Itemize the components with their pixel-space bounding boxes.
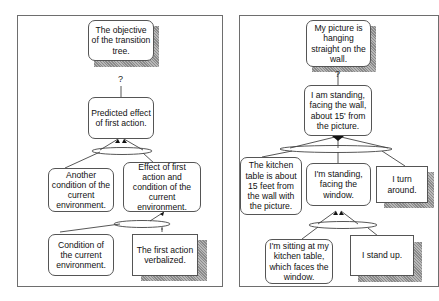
picture-objective-node[interactable]: My picture is hanging straight on the wa…	[306, 20, 371, 67]
predicted-effect-node[interactable]: Predicted effect of first action.	[88, 97, 154, 139]
turn-around-node[interactable]: I turn around.	[376, 166, 428, 203]
sitting-at-table-node[interactable]: I'm sitting at my kitchen table, which f…	[265, 239, 333, 284]
kitchen-table-distance-node[interactable]: The kitchen table is about 15 feet from …	[240, 157, 302, 215]
standing-facing-window-node[interactable]: I'm standing, facing the window.	[306, 163, 371, 206]
question-mark: ?	[118, 74, 123, 84]
stand-up-node[interactable]: I stand up.	[350, 235, 414, 276]
first-action-node[interactable]: The first action verbalized.	[132, 234, 198, 276]
standing-facing-wall-node[interactable]: I am standing, facing the wall, about 15…	[304, 85, 372, 136]
objective-node[interactable]: The objective of the transition tree.	[88, 20, 154, 61]
question-mark-right: ?	[335, 69, 340, 79]
another-condition-node[interactable]: Another condition of the current environ…	[48, 168, 114, 212]
effect-and-condition-node[interactable]: Effect of first action and condition of …	[123, 162, 201, 212]
condition-node[interactable]: Condition of the current environment.	[48, 234, 114, 276]
